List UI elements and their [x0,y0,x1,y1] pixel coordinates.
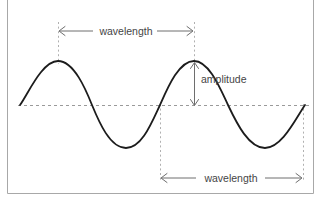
sine-wave-curve [20,61,305,148]
annotation-wavelength-bottom: wavelength [161,172,302,184]
guide-lines [59,22,304,182]
wave-diagram-figure: wavelength amplitude wavelength [0,0,316,200]
annotation-wavelength-top: wavelength [59,25,193,37]
wavelength-bottom-label: wavelength [203,172,257,184]
wavelength-top-label: wavelength [98,25,152,37]
amplitude-label: amplitude [201,73,247,85]
wave-diagram-canvas: wavelength amplitude wavelength [0,0,316,200]
annotation-amplitude: amplitude [191,63,247,106]
